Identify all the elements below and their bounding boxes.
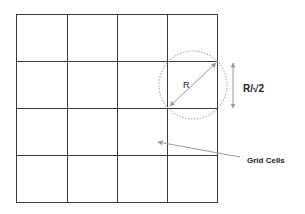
grid-cells-pointer-arrow: [158, 142, 240, 157]
cell-size-label: R/√2: [243, 83, 264, 94]
radius-arrow: [170, 63, 216, 106]
grid-diagram: R R/√2 Grid Cells: [0, 0, 305, 214]
grid: [17, 15, 218, 203]
radius-label: R: [183, 80, 190, 90]
grid-cells-label: Grid Cells: [247, 156, 285, 165]
